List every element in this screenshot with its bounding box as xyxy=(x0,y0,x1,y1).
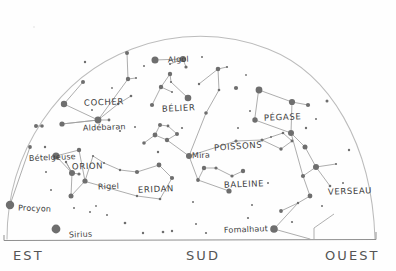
star-label-sirius: Sirius xyxy=(69,231,92,239)
dome-arc xyxy=(7,36,375,239)
star-label-aldebaran: Aldébaran xyxy=(83,124,126,132)
constellation-label-baleine: BALEINE xyxy=(224,180,264,189)
constellation-label-eridan: ERIDAN xyxy=(138,185,174,194)
constellation-label-belier: BÉLIER xyxy=(162,104,195,113)
line-belier xyxy=(152,74,188,105)
line-cocher xyxy=(62,53,136,124)
line-petit-chien xyxy=(10,147,30,205)
star-label-procyon: Procyon xyxy=(18,205,51,213)
line-misc-b xyxy=(155,125,177,140)
constellation-label-cocher: COCHER xyxy=(84,98,124,107)
sky-dome-drawing xyxy=(0,0,396,271)
constellation-label-verseau: VERSEAU xyxy=(328,187,372,196)
star-label-algol: Algol xyxy=(168,56,189,64)
cardinal-label-east: EST xyxy=(13,249,44,262)
star-label-fomalhaut: Fomalhaut xyxy=(224,226,268,234)
star-label-rigel: Rigel xyxy=(98,183,119,191)
star-chart: COCHER BÉLIER PÉGASE ORION ERIDAN POISSO… xyxy=(0,0,396,271)
cardinal-label-south: SUD xyxy=(186,249,220,262)
constellation-label-orion: ORION xyxy=(72,162,103,171)
star-label-mira: Mira xyxy=(192,152,210,160)
constellation-label-poissons: POISSONS xyxy=(214,142,262,151)
constellation-lines xyxy=(10,53,336,239)
constellation-label-pegase: PÉGASE xyxy=(264,113,301,122)
cardinal-label-west: OUEST xyxy=(325,249,380,262)
star-label-betelgeuse: Bételgeuse xyxy=(29,154,76,162)
